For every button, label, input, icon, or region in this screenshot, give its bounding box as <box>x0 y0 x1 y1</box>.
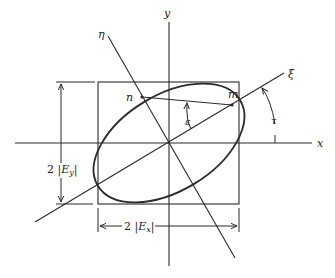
tau-label: τ <box>271 115 277 126</box>
epsilon-label: ε <box>185 116 190 127</box>
point-n-label: n <box>126 91 133 104</box>
x-axis-label: x <box>317 137 324 150</box>
point-m <box>230 103 233 106</box>
ey-suffix: | <box>74 163 78 177</box>
ex-var: E <box>137 220 146 233</box>
xi-axis-label: ξ <box>288 68 295 81</box>
eta-axis-label: η <box>98 28 105 41</box>
ey-dimension-label: 2 |Ey| <box>47 163 77 177</box>
point-n <box>140 95 143 98</box>
ex-suffix: | <box>151 220 155 234</box>
ey-var: E <box>60 163 69 176</box>
ex-prefix: 2 | <box>124 220 138 234</box>
polarization-ellipse-diagram: y x ξ η n m ε τ 2 |Ey| 2 |Ex| <box>0 0 335 278</box>
ey-prefix: 2 | <box>47 163 61 177</box>
point-m-label: m <box>228 88 238 101</box>
ex-dimension-label: 2 |Ex| <box>124 220 154 234</box>
y-axis-label: y <box>163 7 171 20</box>
